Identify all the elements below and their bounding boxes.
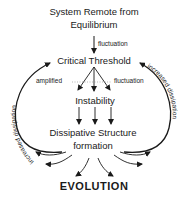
- node-system-line1: System Remote from: [49, 7, 138, 17]
- node-dissipative-line2: formation: [73, 141, 113, 151]
- evolution-arrow-4: [114, 155, 142, 164]
- left-loop-label: increased dissipation: [10, 104, 35, 165]
- node-critical-threshold: Critical Threshold: [57, 56, 131, 66]
- node-instability: Instability: [75, 96, 115, 106]
- right-loop-label: increased dissipation: [146, 62, 178, 120]
- edge-label-fluctuation-top: fluctuation: [98, 40, 128, 47]
- arrow-threshold-to-instability-right: [94, 67, 110, 90]
- node-dissipative-line1: Dissipative Structure: [49, 128, 136, 138]
- edge-label-fluctuation-side: fluctuation: [114, 77, 144, 84]
- edge-label-amplified: amplified: [36, 77, 62, 84]
- node-system-line2: Equilibrium: [71, 20, 118, 30]
- arrow-threshold-to-instability-left: [78, 67, 94, 90]
- evolution-arrow-3: [98, 158, 113, 176]
- node-evolution: EVOLUTION: [60, 181, 129, 191]
- evolution-arrow-2: [76, 158, 89, 176]
- evolution-arrow-1: [46, 155, 72, 164]
